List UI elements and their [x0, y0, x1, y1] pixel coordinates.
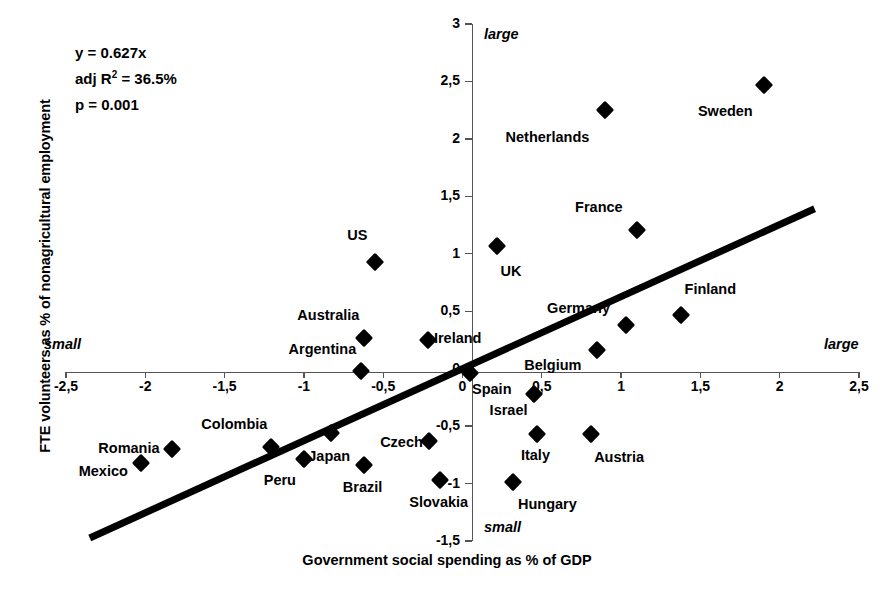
data-point-label: Colombia	[201, 417, 267, 432]
annotation-x-small: small	[44, 336, 81, 352]
data-point-label: Slovakia	[409, 495, 468, 510]
annotation-x-large: large	[824, 336, 859, 352]
data-point-label: Brazil	[343, 480, 383, 495]
data-point-label: Argentina	[289, 342, 357, 357]
data-point-label: Hungary	[518, 497, 577, 512]
data-point-label: Germany	[547, 301, 610, 316]
data-point-label: France	[575, 200, 623, 215]
data-point-label: Czech	[380, 435, 423, 450]
data-point-label: Italy	[521, 448, 550, 463]
data-point-label: Romania	[98, 441, 159, 456]
annotation-y-small: small	[484, 519, 521, 535]
chart-canvas: FTE volunteers as % of nonagricultural e…	[0, 0, 894, 589]
data-point-label: Finland	[685, 282, 737, 297]
data-point-label: Netherlands	[506, 130, 590, 145]
data-point-label: Israel	[490, 403, 528, 418]
data-point-label: Mexico	[79, 464, 128, 479]
data-point-label: Japan	[308, 449, 350, 464]
annotation-y-large: large	[484, 26, 519, 42]
data-point-label: Austria	[594, 450, 644, 465]
data-point-label: Spain	[472, 382, 511, 397]
data-point-label: Sweden	[698, 104, 753, 119]
data-point-label: UK	[501, 264, 522, 279]
data-point-label: Australia	[297, 308, 359, 323]
data-point-label: Ireland	[434, 331, 482, 346]
data-point-label: US	[347, 228, 367, 243]
data-point-label: Belgium	[524, 358, 581, 373]
data-point-label: Peru	[264, 473, 296, 488]
